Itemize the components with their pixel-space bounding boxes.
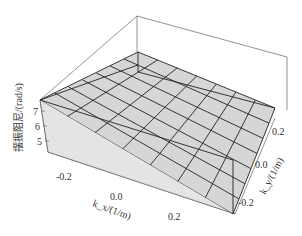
x-tick-neg02: -0.2 xyxy=(56,171,72,182)
z-tick-5: 5 xyxy=(37,136,42,147)
y-tick-neg02: -0.2 xyxy=(238,197,254,208)
x-tick-00: 0.0 xyxy=(110,191,123,202)
y-tick-02: 0.2 xyxy=(272,126,285,137)
x-tick-02: 0.2 xyxy=(168,211,181,222)
z-tick-7: 7 xyxy=(33,106,38,117)
surface-plot-3d: 7 6 5 摆振阻尼/(rad/s) -0.2 0.0 0.2 k_x/(1/m… xyxy=(0,0,302,236)
z-axis-label: 摆振阻尼/(rad/s) xyxy=(12,83,25,152)
z-tick-6: 6 xyxy=(35,121,40,132)
surface xyxy=(40,52,275,214)
y-tick-00: 0.0 xyxy=(255,159,268,170)
